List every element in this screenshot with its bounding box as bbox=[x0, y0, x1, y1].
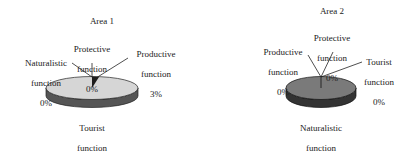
label-productive: Productive function 3% bbox=[134, 39, 178, 109]
chart-title: Area 2 bbox=[312, 6, 352, 16]
label-productive: Productive function 0% bbox=[260, 37, 306, 107]
label-naturalistic: Naturalistic function 100% bbox=[294, 113, 348, 154]
pie-chart-area-1: Area 1 Protective function 0% Productive… bbox=[0, 0, 204, 154]
label-protective: Protective function 0% bbox=[70, 34, 114, 104]
label-naturalistic: Naturalistic function 0% bbox=[20, 48, 72, 118]
chart-title: Area 1 bbox=[82, 16, 122, 26]
pie-chart-area-2: Area 2 Protective function 0% Productive… bbox=[204, 0, 408, 154]
label-tourist: Tourist function 0% bbox=[359, 47, 399, 117]
label-tourist: Tourist function 97% bbox=[72, 113, 112, 154]
label-protective: Protective function 0% bbox=[310, 23, 354, 93]
